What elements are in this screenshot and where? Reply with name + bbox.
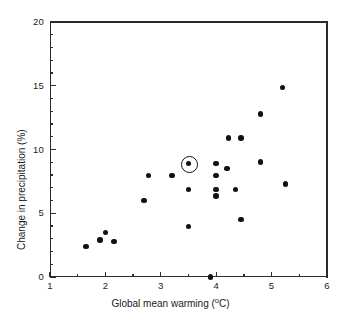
x-tick-minor <box>299 274 300 277</box>
x-tick-major <box>271 272 272 278</box>
x-tick-major <box>326 272 327 278</box>
y-tick-minor <box>50 225 53 226</box>
y-tick-label: 15 <box>20 80 44 91</box>
x-axis-title-tail: C) <box>219 298 230 309</box>
x-tick-major <box>160 272 161 278</box>
y-tick-minor <box>50 47 53 48</box>
x-tick-minor <box>188 274 189 277</box>
y-tick-minor <box>50 162 53 163</box>
x-tick-major <box>105 272 106 278</box>
data-point <box>238 135 244 141</box>
x-tick-label: 6 <box>315 280 339 291</box>
y-tick-minor <box>50 111 53 112</box>
data-point <box>213 193 219 199</box>
x-tick-minor <box>132 274 133 277</box>
data-point <box>169 173 175 179</box>
y-tick-minor <box>50 123 53 124</box>
y-tick-minor <box>50 251 53 252</box>
y-tick-minor <box>50 136 53 137</box>
y-tick-major <box>50 85 56 86</box>
y-tick-minor <box>50 200 53 201</box>
x-axis-title: Global mean warming (oC) <box>0 296 341 309</box>
y-tick-major <box>50 21 56 22</box>
data-point <box>111 239 117 245</box>
x-tick-label: 2 <box>93 280 117 291</box>
y-tick-minor <box>50 238 53 239</box>
y-tick-minor <box>50 60 53 61</box>
y-tick-major <box>50 213 56 214</box>
y-tick-minor <box>50 34 53 35</box>
y-tick-label: 20 <box>20 16 44 27</box>
scatter-chart-figure: 12345605101520 Global mean warming (oC) … <box>0 0 341 318</box>
y-tick-minor <box>50 187 53 188</box>
x-tick-major <box>216 272 217 278</box>
y-tick-major <box>50 276 56 277</box>
data-point <box>83 244 89 250</box>
y-tick-minor <box>50 98 53 99</box>
y-tick-minor <box>50 174 53 175</box>
x-tick-label: 4 <box>204 280 228 291</box>
data-point <box>258 111 264 117</box>
y-tick-label: 0 <box>20 271 44 282</box>
data-point <box>97 237 103 243</box>
data-point <box>208 274 214 280</box>
data-point <box>226 135 232 141</box>
y-axis-title: Change in precipitation (%) <box>16 129 27 250</box>
x-tick-minor <box>77 274 78 277</box>
plot-area <box>50 22 327 277</box>
y-tick-major <box>50 149 56 150</box>
x-axis-title-text: Global mean warming ( <box>111 298 214 309</box>
x-tick-label: 5 <box>260 280 284 291</box>
y-tick-minor <box>50 72 53 73</box>
x-tick-label: 3 <box>149 280 173 291</box>
x-tick-minor <box>243 274 244 277</box>
data-point <box>283 181 289 187</box>
y-tick-minor <box>50 264 53 265</box>
